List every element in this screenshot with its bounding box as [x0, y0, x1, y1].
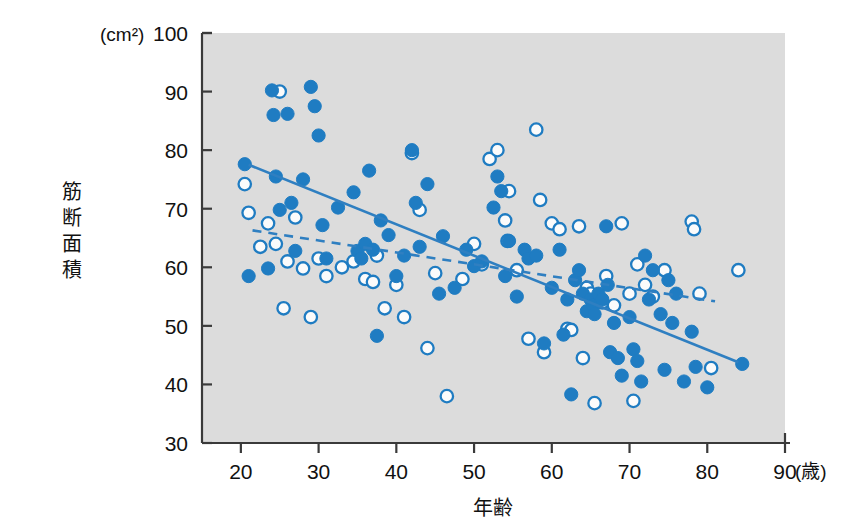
x-tick-label-30: 30 — [307, 460, 330, 483]
data-point — [615, 369, 628, 382]
plot-area-background — [202, 33, 785, 443]
data-point — [270, 238, 282, 250]
data-point — [557, 328, 570, 341]
y-tick-label-30: 30 — [165, 432, 188, 455]
data-point — [409, 196, 422, 209]
x-tick-label-50: 50 — [462, 460, 485, 483]
data-point — [522, 333, 534, 345]
data-point — [631, 354, 644, 367]
data-point — [732, 264, 744, 276]
data-point — [565, 388, 578, 401]
data-point — [530, 123, 542, 135]
data-point — [611, 351, 624, 364]
data-point — [635, 375, 648, 388]
y-tick-label-50: 50 — [165, 315, 188, 338]
y-axis-unit-label: (cm²) — [100, 24, 144, 45]
x-tick-label-60: 60 — [540, 460, 563, 483]
data-point — [577, 352, 589, 364]
data-point — [510, 290, 523, 303]
data-point — [336, 261, 348, 273]
data-point — [432, 287, 445, 300]
data-point — [316, 219, 329, 232]
data-point — [530, 249, 543, 262]
data-point — [736, 357, 749, 370]
y-axis-title-char: 面 — [62, 233, 82, 255]
x-axis-title: 年齢 — [473, 497, 513, 519]
data-point — [666, 316, 679, 329]
y-tick-label-90: 90 — [165, 81, 188, 104]
data-point — [421, 178, 434, 191]
data-point — [281, 107, 294, 120]
data-point — [429, 267, 441, 279]
y-tick-label-70: 70 — [165, 198, 188, 221]
data-point — [491, 144, 503, 156]
y-axis-title-char: 積 — [62, 259, 82, 281]
x-tick-label-20: 20 — [229, 460, 252, 483]
data-point — [658, 363, 671, 376]
data-point — [588, 308, 601, 321]
data-point — [685, 325, 698, 338]
data-point — [254, 241, 266, 253]
data-point — [677, 375, 690, 388]
data-point — [355, 252, 368, 265]
x-tick-label-90: 90 — [773, 460, 796, 483]
data-point — [553, 223, 565, 235]
data-point — [642, 293, 655, 306]
data-point — [701, 381, 714, 394]
data-point — [502, 234, 515, 247]
data-point — [573, 220, 585, 232]
y-axis-title-char: 断 — [62, 207, 82, 229]
data-point — [448, 281, 461, 294]
data-point — [267, 108, 280, 121]
data-point — [265, 84, 278, 97]
y-tick-label-60: 60 — [165, 256, 188, 279]
data-point — [347, 186, 360, 199]
data-point — [688, 223, 700, 235]
data-point — [285, 196, 298, 209]
data-point — [627, 395, 639, 407]
data-point — [239, 178, 251, 190]
scatter-chart-figure: 30405060708090100 2030405060708090 (cm²)… — [0, 0, 860, 531]
x-tick-label-80: 80 — [696, 460, 719, 483]
data-point — [363, 164, 376, 177]
data-point — [588, 397, 600, 409]
data-point — [382, 228, 395, 241]
y-tick-label-40: 40 — [165, 373, 188, 396]
data-point — [297, 262, 309, 274]
data-point — [398, 311, 410, 323]
data-point — [366, 243, 379, 256]
data-point — [277, 302, 289, 314]
data-point — [689, 360, 702, 373]
data-point — [553, 243, 566, 256]
data-point — [378, 302, 390, 314]
data-point — [537, 337, 550, 350]
data-point — [308, 100, 321, 113]
data-point — [367, 276, 379, 288]
data-point — [499, 214, 511, 226]
data-point — [534, 194, 546, 206]
data-point — [662, 274, 675, 287]
data-point — [312, 129, 325, 142]
data-point — [487, 201, 500, 214]
data-point — [491, 170, 504, 183]
y-axis-title-char: 筋 — [62, 181, 82, 203]
data-point — [304, 80, 317, 93]
y-tick-label-80: 80 — [165, 139, 188, 162]
data-point — [627, 343, 640, 356]
data-point — [289, 211, 301, 223]
data-point — [242, 207, 254, 219]
data-point — [413, 240, 426, 253]
data-point — [398, 249, 411, 262]
data-point — [273, 203, 286, 216]
data-point — [499, 269, 512, 282]
data-point — [305, 311, 317, 323]
data-point — [572, 264, 585, 277]
chart-svg-canvas: 30405060708090100 2030405060708090 (cm²)… — [0, 0, 860, 531]
data-point — [646, 264, 659, 277]
data-point — [390, 269, 403, 282]
x-axis-unit-label: (歳) — [795, 461, 827, 482]
data-point — [441, 390, 453, 402]
data-point — [705, 362, 717, 374]
data-point — [421, 342, 433, 354]
x-tick-label-40: 40 — [385, 460, 408, 483]
